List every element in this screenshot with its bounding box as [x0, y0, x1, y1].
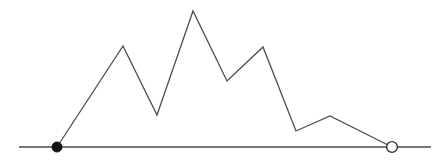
figure-canvas: [0, 0, 446, 164]
data-polyline: [57, 11, 392, 147]
closed-endpoint-marker: [52, 142, 62, 152]
open-endpoint-marker: [387, 142, 398, 153]
line-graph-figure: [0, 0, 446, 164]
